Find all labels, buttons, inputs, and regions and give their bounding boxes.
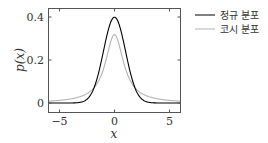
x-axis-label: x [111,127,118,141]
chart-svg: −50500.20.4 x p(x) 정규 분포 코시 분포 [0,0,268,143]
series-line [49,35,181,102]
y-tick-label: 0.4 [27,11,45,24]
y-tick-label: 0.2 [27,54,45,67]
y-tick-label: 0 [37,97,44,110]
y-axis-label: p(x) [13,48,27,72]
x-tick-label: −5 [51,115,67,128]
legend-label-normal: 정규 분포 [220,10,259,21]
legend-label-cauchy: 코시 분포 [220,24,259,35]
plot-frame [49,9,181,113]
series-line [49,17,181,103]
plot-area [49,17,181,103]
legend: 정규 분포 코시 분포 [195,10,259,35]
x-tick-label: 5 [166,115,173,128]
